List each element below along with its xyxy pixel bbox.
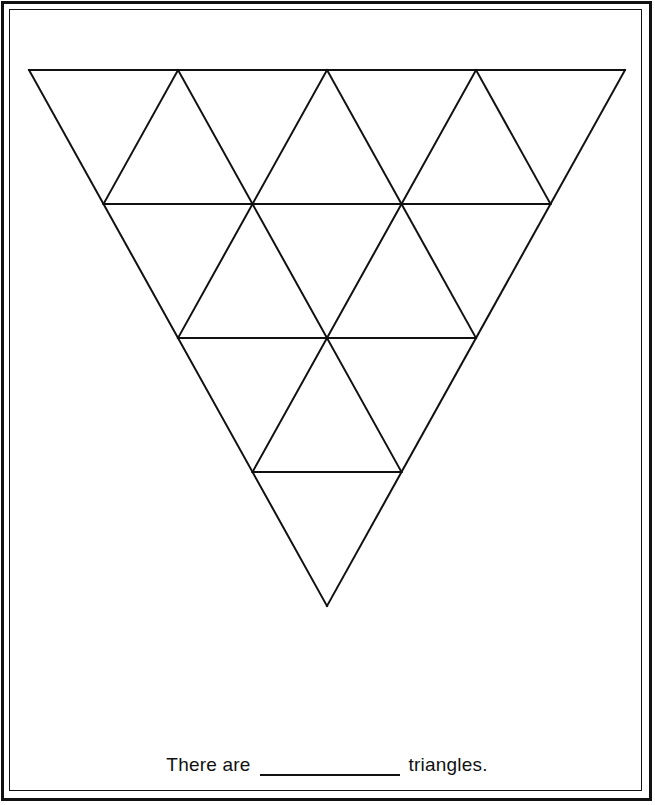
triangle-lattice-svg (0, 0, 655, 700)
lattice-line (178, 70, 402, 472)
lattice-lines (29, 70, 625, 606)
answer-caption: There are triangles. (10, 748, 644, 782)
lattice-line (253, 70, 477, 472)
caption-lead-text: There are (166, 754, 250, 776)
answer-blank-field[interactable] (260, 755, 400, 776)
worksheet-page: There are triangles. (0, 0, 655, 805)
triangle-figure (0, 0, 655, 700)
caption-trail-text: triangles. (409, 754, 488, 776)
lattice-line (104, 70, 179, 204)
lattice-line (476, 70, 551, 204)
